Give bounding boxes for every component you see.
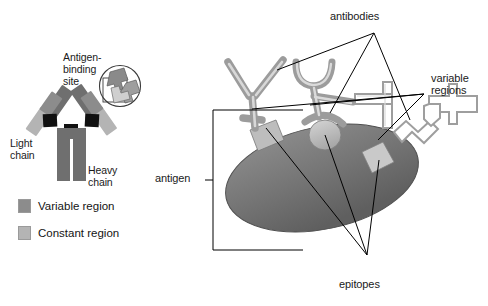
variable-regions-label: variable regions	[431, 72, 469, 97]
legend-swatch-constant-region	[18, 226, 31, 240]
antibodies-label: antibodies	[330, 10, 379, 22]
antibody-left-foot	[243, 118, 262, 120]
diagram-canvas	[0, 0, 488, 306]
legend-label-constant-region: Constant region	[38, 227, 119, 239]
legend-item-constant-region: Constant region	[18, 226, 119, 240]
legend-item-variable-region: Variable region	[18, 199, 115, 213]
hinge-block-right	[85, 114, 100, 128]
leader-antibodies-1	[277, 33, 374, 70]
antibody-right-hinge	[424, 104, 440, 126]
antibody-middle-upper-fork	[296, 62, 332, 86]
antibody-right-stem	[355, 82, 392, 128]
heavy-chain-label: Heavy chain	[88, 165, 117, 189]
light-chain-label: Light chain	[10, 138, 35, 162]
legend-swatch-variable-region	[18, 199, 31, 213]
antibody-antigen-diagram: Antigen- binding site Light chain Heavy …	[0, 0, 488, 306]
legend-label-variable-region: Variable region	[38, 200, 115, 212]
epitopes-label: epitopes	[339, 278, 380, 290]
antibody-middle	[296, 62, 353, 124]
hinge-block-left	[43, 114, 58, 128]
antigen-label: antigen	[155, 172, 190, 184]
heavy-chain-stem-bridge	[57, 128, 86, 139]
binding-site-detail	[107, 68, 140, 103]
antigen-binding-site-label: Antigen- binding site	[63, 52, 101, 87]
